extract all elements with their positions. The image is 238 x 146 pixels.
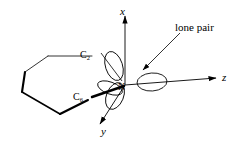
axis-label-x: x <box>120 6 125 17</box>
atom-label-n: N <box>118 82 125 92</box>
atom-label-c6-subscript: 6 <box>80 96 83 103</box>
ring-skeleton <box>22 56 92 114</box>
ring-bond-far-upper-left <box>25 56 48 72</box>
lone-pair-leader <box>143 33 180 70</box>
axis-label-y: y <box>101 126 106 137</box>
orbital-lobes <box>96 49 168 112</box>
atom-label-c6: C6 <box>73 92 83 102</box>
axis-label-z: z <box>222 72 226 83</box>
ring-bond-near-lower-left <box>22 92 60 114</box>
orbital-diagram: x y z N C2 C6 lone pair <box>0 0 238 146</box>
atom-label-c2-subscript: 2 <box>87 54 90 61</box>
ring-bond-near-bottom <box>60 100 88 114</box>
orbital-lobe-upper-left <box>101 49 126 83</box>
lone-pair-arrow <box>143 33 180 70</box>
atom-label-c2: C2 <box>80 50 90 60</box>
atom-label-c6-element: C <box>73 91 80 102</box>
atom-label-c2-element: C <box>80 49 87 60</box>
ring-bond-near-left <box>22 72 25 92</box>
lone-pair-annotation-label: lone pair <box>175 22 214 33</box>
